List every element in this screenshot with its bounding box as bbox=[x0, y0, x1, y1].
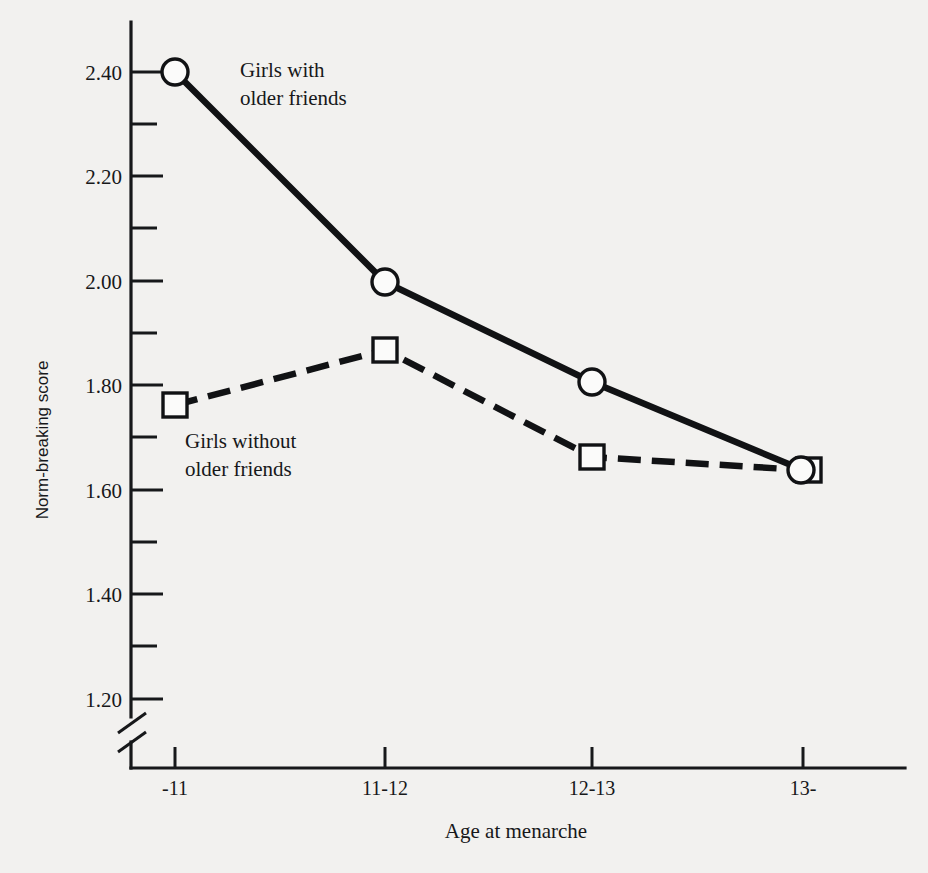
annotation-lower-line-2: older friends bbox=[185, 457, 292, 481]
x-ticks bbox=[175, 747, 803, 768]
x-tick-label-2: 12-13 bbox=[569, 777, 616, 799]
y-tick-label-200: 2.00 bbox=[85, 270, 122, 294]
series-markers-girls-with-older-friends bbox=[162, 59, 814, 483]
chart-canvas: 2.40 2.20 2.00 1.80 1.60 1.40 1.20 -11 1… bbox=[0, 0, 928, 873]
y-tick-label-160: 1.60 bbox=[85, 479, 122, 503]
data-point-square-1 bbox=[373, 338, 397, 362]
x-axis-title: Age at menarche bbox=[445, 819, 587, 843]
chart-figure: 2.40 2.20 2.00 1.80 1.60 1.40 1.20 -11 1… bbox=[0, 0, 928, 873]
y-tick-label-240: 2.40 bbox=[85, 61, 122, 85]
y-tick-label-220: 2.20 bbox=[85, 165, 122, 189]
x-tick-label-1: 11-12 bbox=[362, 777, 408, 799]
line-chart-svg: 2.40 2.20 2.00 1.80 1.60 1.40 1.20 -11 1… bbox=[0, 0, 928, 873]
data-point-circle-3 bbox=[788, 457, 814, 483]
y-axis-title: Norm-breaking score bbox=[33, 361, 52, 520]
y-tick-label-120: 1.20 bbox=[85, 688, 122, 712]
y-tick-label-180: 1.80 bbox=[85, 374, 122, 398]
y-major-ticks bbox=[131, 72, 163, 699]
annotation-upper-line-2: older friends bbox=[240, 86, 347, 110]
data-point-square-0 bbox=[163, 393, 187, 417]
annotation-upper-line-1: Girls with bbox=[240, 58, 325, 82]
series-line-girls-with-older-friends bbox=[175, 72, 803, 470]
annotation-lower-line-1: Girls without bbox=[185, 429, 297, 453]
data-point-circle-1 bbox=[372, 269, 398, 295]
x-tick-label-0: -11 bbox=[162, 777, 188, 799]
data-point-square-2 bbox=[580, 445, 604, 469]
x-tick-label-3: 13- bbox=[790, 777, 817, 799]
data-point-circle-0 bbox=[162, 59, 188, 85]
annotation-girls-without-older-friends: Girls without older friends bbox=[185, 429, 297, 481]
y-tick-label-140: 1.40 bbox=[85, 583, 122, 607]
data-point-circle-2 bbox=[579, 369, 605, 395]
annotation-girls-with-older-friends: Girls with older friends bbox=[240, 58, 347, 110]
